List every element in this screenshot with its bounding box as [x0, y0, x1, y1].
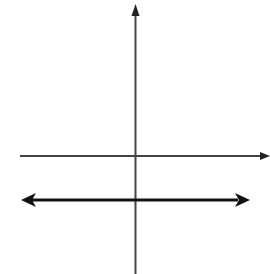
y-axis [132, 4, 140, 274]
y-axis-arrow-icon [132, 4, 140, 16]
graph-figure [0, 0, 270, 274]
coordinate-plane [0, 0, 270, 274]
x-axis-arrow-icon [260, 152, 270, 160]
x-axis [20, 152, 270, 160]
